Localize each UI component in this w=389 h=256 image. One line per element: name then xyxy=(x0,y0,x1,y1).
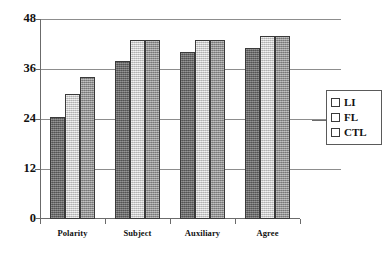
bar xyxy=(180,52,195,219)
x-axis-tick-label: Subject xyxy=(123,228,151,238)
bars-layer xyxy=(40,19,300,219)
legend-swatch-icon-li xyxy=(331,98,340,107)
bar-group xyxy=(115,19,160,219)
bar-group xyxy=(245,19,290,219)
bar xyxy=(115,61,130,219)
y-axis-tick-label: 12 xyxy=(2,162,36,175)
x-axis-tick-label: Auxiliary xyxy=(185,228,220,238)
bar-group xyxy=(180,19,225,219)
x-axis-tick-label: Agree xyxy=(256,228,278,238)
bar xyxy=(130,40,145,219)
legend-item-fl: FL xyxy=(331,110,377,125)
x-axis-labels: PolaritySubjectAuxiliaryAgree xyxy=(40,219,300,256)
legend-item-li: LI xyxy=(331,95,377,110)
y-axis-tick-label: 24 xyxy=(2,112,36,125)
legend-connector-line xyxy=(312,120,326,121)
x-axis-tick-label: Polarity xyxy=(57,228,87,238)
bar xyxy=(245,48,260,219)
bar xyxy=(195,40,210,219)
y-axis-tick-label: 0 xyxy=(2,212,36,225)
x-axis-tick-mark xyxy=(40,219,41,224)
legend-label-fl: FL xyxy=(344,112,358,123)
chart-legend: LI FL CTL xyxy=(326,90,382,145)
x-axis-tick-mark xyxy=(235,219,236,224)
y-axis-labels: 48 36 24 12 0 xyxy=(0,0,36,256)
x-axis-tick-mark xyxy=(300,219,301,224)
bar xyxy=(65,94,80,219)
legend-label-ctl: CTL xyxy=(344,127,367,138)
bar xyxy=(275,36,290,219)
y-axis-tick-label: 36 xyxy=(2,62,36,75)
bar-group xyxy=(50,19,95,219)
bar xyxy=(260,36,275,219)
bar xyxy=(145,40,160,219)
bar xyxy=(210,40,225,219)
y-axis-tick-label: 48 xyxy=(2,12,36,25)
legend-label-li: LI xyxy=(344,97,356,108)
bar xyxy=(80,77,95,219)
legend-swatch-icon-ctl xyxy=(331,128,340,137)
x-axis-tick-mark xyxy=(105,219,106,224)
bar xyxy=(50,117,65,219)
legend-swatch-icon-fl xyxy=(331,113,340,122)
legend-item-ctl: CTL xyxy=(331,125,377,140)
x-axis-tick-mark xyxy=(170,219,171,224)
bar-chart-figure: 48 36 24 12 0 PolaritySubjectAuxiliaryAg… xyxy=(0,0,389,256)
